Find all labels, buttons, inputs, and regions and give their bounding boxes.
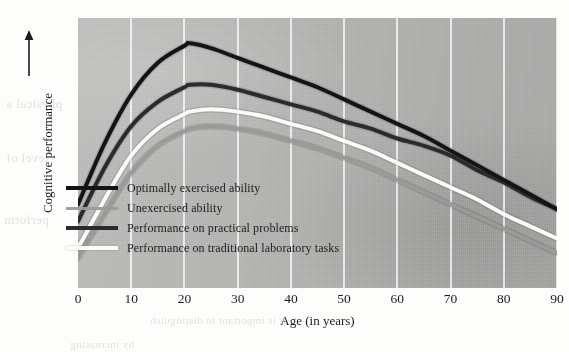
legend-label-4: Performance on traditional laboratory ta… bbox=[127, 241, 339, 256]
legend-row-4: Performance on traditional laboratory ta… bbox=[66, 238, 339, 258]
legend-swatch-unexercised bbox=[66, 207, 118, 210]
x-tick-label-50: 50 bbox=[337, 291, 351, 307]
x-tick-label-20: 20 bbox=[178, 291, 192, 307]
legend-label-3: Performance on practical problems bbox=[127, 221, 299, 236]
x-axis-title: Age (in years) bbox=[78, 313, 557, 329]
legend-swatch-practical-problems bbox=[66, 226, 118, 230]
legend-label-2: Unexercised ability bbox=[127, 201, 223, 216]
x-tick-label-80: 80 bbox=[497, 291, 511, 307]
x-tick-label-40: 40 bbox=[284, 291, 298, 307]
x-tick-label-0: 0 bbox=[75, 291, 82, 307]
legend-swatch-optimally-exercised bbox=[66, 186, 118, 190]
legend-row-1: Optimally exercised ability bbox=[66, 178, 339, 198]
x-tick-label-70: 70 bbox=[444, 291, 458, 307]
legend-swatch-laboratory-tasks bbox=[66, 246, 118, 250]
x-tick-label-30: 30 bbox=[231, 291, 245, 307]
y-axis-title: Cognitive performance bbox=[40, 93, 56, 213]
legend-label-1: Optimally exercised ability bbox=[127, 181, 260, 196]
legend-row-2: Unexercised ability bbox=[66, 198, 339, 218]
legend: Optimally exercised abilityUnexercised a… bbox=[66, 178, 339, 258]
x-tick-label-60: 60 bbox=[391, 291, 405, 307]
legend-row-3: Performance on practical problems bbox=[66, 218, 339, 238]
cognitive-performance-figure: Optimally exercised abilityUnexercised a… bbox=[0, 0, 569, 352]
x-axis-tick-labels: 0102030405060708090 bbox=[78, 291, 557, 311]
up-arrow-icon bbox=[22, 30, 36, 76]
x-tick-label-10: 10 bbox=[124, 291, 138, 307]
x-tick-label-90: 90 bbox=[550, 291, 564, 307]
